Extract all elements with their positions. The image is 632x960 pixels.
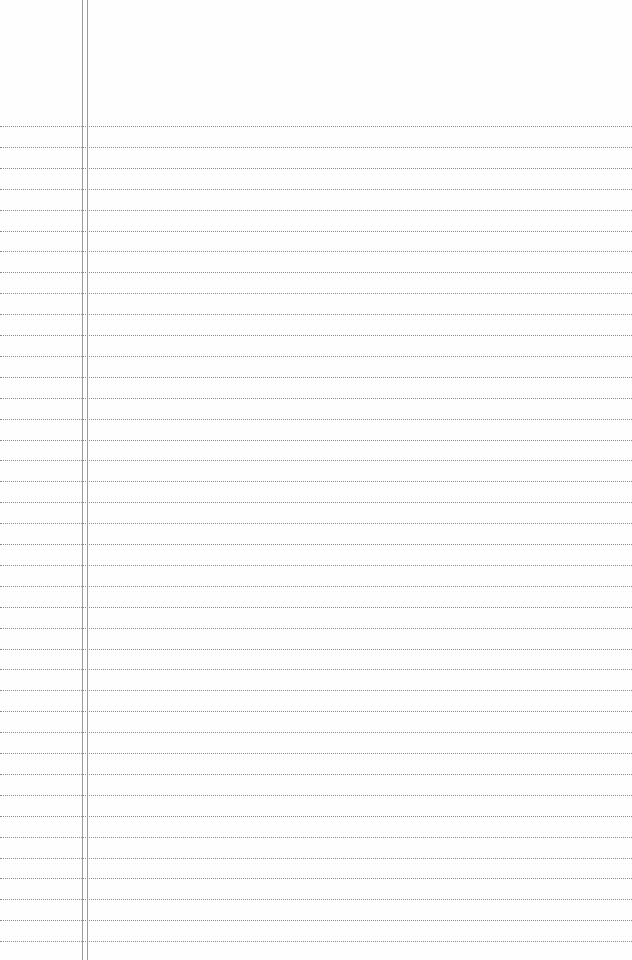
- ruled-line: [0, 690, 632, 691]
- ruled-line: [0, 481, 632, 482]
- ruled-line: [0, 502, 632, 503]
- ruled-line: [0, 858, 632, 859]
- ruled-line: [0, 356, 632, 357]
- ruled-line: [0, 732, 632, 733]
- ruled-line: [0, 899, 632, 900]
- ruled-line: [0, 126, 632, 127]
- ruled-line: [0, 251, 632, 252]
- ruled-line: [0, 419, 632, 420]
- margin-line: [87, 0, 88, 960]
- lined-paper-page: [0, 0, 632, 960]
- ruled-line: [0, 878, 632, 879]
- ruled-line: [0, 293, 632, 294]
- ruled-line: [0, 460, 632, 461]
- ruled-line: [0, 189, 632, 190]
- ruled-line: [0, 941, 632, 942]
- ruled-line: [0, 231, 632, 232]
- ruled-line: [0, 669, 632, 670]
- ruled-line: [0, 544, 632, 545]
- ruled-line: [0, 377, 632, 378]
- ruled-line: [0, 711, 632, 712]
- ruled-line: [0, 272, 632, 273]
- ruled-line: [0, 586, 632, 587]
- ruled-line: [0, 168, 632, 169]
- ruled-line: [0, 565, 632, 566]
- ruled-line: [0, 147, 632, 148]
- ruled-line: [0, 440, 632, 441]
- ruled-line: [0, 607, 632, 608]
- ruled-line: [0, 523, 632, 524]
- ruled-line: [0, 920, 632, 921]
- ruled-line: [0, 314, 632, 315]
- ruled-line: [0, 398, 632, 399]
- ruled-line: [0, 795, 632, 796]
- margin-line: [82, 0, 83, 960]
- ruled-line: [0, 210, 632, 211]
- ruled-line: [0, 837, 632, 838]
- ruled-line: [0, 628, 632, 629]
- ruled-line: [0, 774, 632, 775]
- ruled-line: [0, 753, 632, 754]
- ruled-line: [0, 816, 632, 817]
- ruled-line: [0, 335, 632, 336]
- ruled-line: [0, 649, 632, 650]
